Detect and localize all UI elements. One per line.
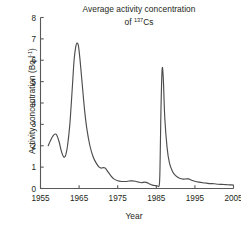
y-tick-label-1: 1 [31, 163, 36, 172]
data-series-group [48, 43, 233, 187]
y-tick-label-8: 8 [31, 14, 36, 23]
y-tick-label-3: 3 [31, 120, 36, 129]
x-tick-label-1965: 1965 [70, 194, 89, 203]
plot-area: 012345678 195519651975198519952005 [0, 0, 241, 232]
x-tick-label-1985: 1985 [147, 194, 166, 203]
x-tick-label-1995: 1995 [186, 194, 205, 203]
axis-lines [41, 18, 234, 189]
y-axis-tick-labels: 012345678 [31, 14, 36, 194]
y-tick-label-5: 5 [31, 78, 36, 87]
x-axis-tick-labels: 195519651975198519952005 [31, 194, 241, 203]
y-tick-label-0: 0 [31, 185, 36, 194]
series-line-cs137 [48, 43, 233, 187]
x-axis-title: Year [34, 211, 234, 221]
y-tick-label-2: 2 [31, 142, 36, 151]
chart-container: Average activity concentration of 137Cs … [0, 0, 241, 232]
y-tick-label-7: 7 [31, 35, 36, 44]
y-tick-label-6: 6 [31, 56, 36, 65]
x-tick-label-2005: 2005 [224, 194, 241, 203]
axes [41, 18, 234, 189]
x-tick-label-1975: 1975 [109, 194, 128, 203]
y-tick-label-4: 4 [31, 99, 36, 108]
x-tick-label-1955: 1955 [31, 194, 50, 203]
